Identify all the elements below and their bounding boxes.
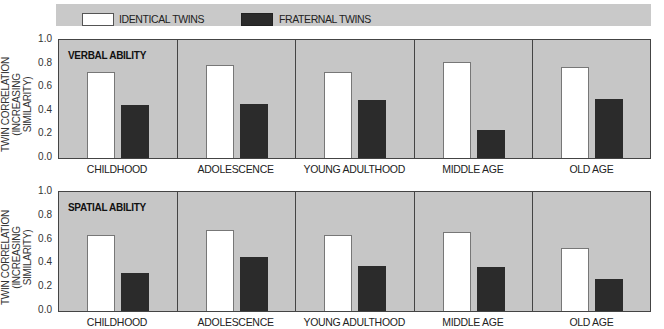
y-tick-label: 0.8 [28,209,52,220]
section-divider [295,40,296,158]
section-divider [532,192,533,311]
y-tick-label: 0.4 [28,256,52,267]
spatial-ability-panel: SPATIAL ABILITY [58,191,651,312]
fraternal-twins-bar [240,104,268,158]
y-tick-label: 1.0 [28,33,52,44]
fraternal-twins-bar [240,257,268,311]
y-tick-label: 0.6 [28,80,52,91]
fraternal-twins-bar [358,266,386,311]
category-label: ADOLESCENCE [177,316,295,328]
y-axis-label-line1: TWIN CORRELATION [0,45,11,165]
fraternal-twins-bar [595,279,623,311]
section-divider [414,192,415,311]
category-label: CHILDHOOD [58,316,176,328]
fraternal-twins-bar [477,130,505,158]
section-divider [295,192,296,311]
category-label: MIDDLE AGE [414,316,532,328]
identical-twins-bar [561,67,589,158]
identical-twins-bar [443,62,471,158]
y-tick-label: 0.6 [28,233,52,244]
panel-title: SPATIAL ABILITY [68,202,146,213]
identical-twins-bar [206,230,234,311]
fraternal-twins-bar [121,105,149,158]
category-label: OLD AGE [532,316,650,328]
identical-twins-bar [206,65,234,158]
y-tick-label: 0.4 [28,104,52,115]
identical-twins-bar [87,235,115,311]
section-divider [414,40,415,158]
category-label: MIDDLE AGE [414,163,532,175]
category-label: CHILDHOOD [58,163,176,175]
category-label: OLD AGE [532,163,650,175]
category-label: YOUNG ADULTHOOD [295,163,413,175]
fraternal-twins-bar [121,273,149,311]
fraternal-twins-legend-label: FRATERNAL TWINS [279,13,371,26]
identical-twins-legend-label: IDENTICAL TWINS [119,13,204,26]
y-tick-label: 0.8 [28,57,52,68]
category-label: YOUNG ADULTHOOD [295,316,413,328]
verbal-ability-panel: VERBAL ABILITY [58,39,651,159]
identical-twins-bar [87,72,115,158]
fraternal-twins-bar [595,99,623,158]
identical-twins-bar [324,235,352,311]
y-tick-label: 0.2 [28,280,52,291]
chart-legend: IDENTICAL TWINS FRATERNAL TWINS [56,4,651,26]
y-tick-label: 0.2 [28,127,52,138]
identical-twins-bar [443,232,471,311]
category-label: ADOLESCENCE [177,163,295,175]
y-tick-label: 1.0 [28,185,52,196]
y-axis-label-line1: TWIN CORRELATION [0,197,11,317]
panel-title: VERBAL ABILITY [68,50,146,61]
identical-twins-bar [324,72,352,158]
section-divider [177,40,178,158]
identical-twins-bar [561,248,589,311]
section-divider [177,192,178,311]
y-tick-label: 0.0 [28,304,52,315]
fraternal-twins-bar [358,100,386,158]
identical-twins-swatch [82,13,114,26]
fraternal-twins-bar [477,267,505,311]
fraternal-twins-swatch [241,13,273,26]
y-tick-label: 0.0 [28,151,52,162]
section-divider [532,40,533,158]
